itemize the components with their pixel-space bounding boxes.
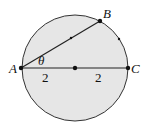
point-b [98, 19, 102, 23]
label-a: A [8, 61, 17, 76]
angle-theta-label: θ [38, 53, 45, 68]
label-b: B [103, 6, 111, 21]
center-point [73, 66, 77, 70]
label-c: C [131, 61, 140, 76]
point-a [19, 66, 23, 70]
arc-mark [118, 38, 120, 40]
circle-diagram: A B C θ 2 2 [0, 0, 143, 127]
segment-label-right: 2 [95, 70, 102, 85]
segment-label-left: 2 [42, 70, 49, 85]
chord-midpoint-mark [70, 37, 72, 39]
point-c [126, 66, 130, 70]
